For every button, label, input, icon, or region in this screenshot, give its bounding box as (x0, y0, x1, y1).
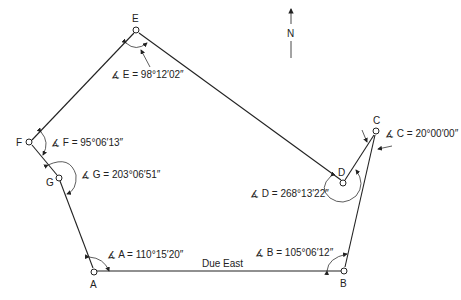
station-b (341, 268, 347, 274)
angle-label-g: ∡ G = 203°06′51″ (81, 169, 161, 180)
station-g (56, 175, 62, 181)
station-label-a: A (90, 279, 97, 290)
leader-c-left (362, 130, 367, 142)
edge-label-due-east: Due East (202, 258, 243, 269)
station-f (26, 139, 32, 145)
angle-arc-e (126, 43, 147, 48)
station-label-e: E (132, 13, 139, 24)
station-d (340, 180, 346, 186)
leader-e (141, 50, 150, 67)
stations (26, 27, 379, 275)
angle-label-f: ∡ F = 95°06′13″ (51, 137, 124, 148)
station-label-c: C (373, 115, 380, 126)
edge-e-f (32, 33, 134, 140)
north-arrow: N (287, 9, 294, 58)
angle-label-b: ∡ B = 105°06′12″ (255, 247, 334, 258)
station-label-g: G (46, 177, 54, 188)
station-a (91, 269, 97, 275)
station-label-d: D (338, 167, 345, 178)
edge-d-e (139, 33, 341, 180)
angle-label-d: ∡ D = 268°13′22″ (250, 188, 329, 199)
station-label-b: B (340, 278, 347, 289)
north-label: N (287, 28, 294, 39)
edge-b-c (345, 135, 375, 267)
angle-label-a: ∡ A = 110°15′20″ (107, 249, 184, 260)
edge-g-a (60, 181, 93, 268)
station-label-f: F (16, 137, 22, 148)
angle-arc-f (41, 132, 46, 155)
traverse-edges (32, 33, 375, 271)
angle-label-c: ∡ C = 20°00′00″ (385, 128, 459, 139)
station-e (133, 27, 139, 33)
traverse-diagram: A B C D E F G ∡ E = 98°12′02″ ∡ F = 95°0… (0, 0, 461, 300)
angle-label-e: ∡ E = 98°12′02″ (111, 69, 184, 80)
leader-c-right (378, 146, 392, 149)
angle-arcs (41, 43, 392, 271)
edge-f-g (32, 145, 57, 175)
station-c (373, 128, 379, 134)
